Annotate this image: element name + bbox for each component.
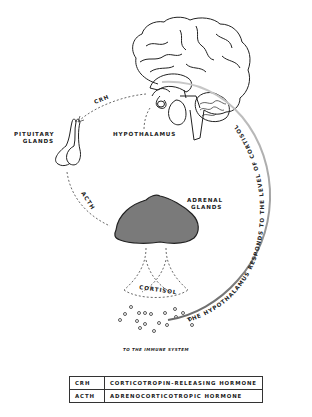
brain-illustration [133,17,250,140]
legend-full: CORTICOTROPIN-RELEASING HORMONE [105,377,263,390]
hypothalamus-label: HYPOTHALAMUS [113,131,176,138]
immune-system-label: TO THE IMMUNE SYSTEM [110,346,202,353]
pituitary-label-line1: PITUITARY [14,131,54,138]
acth-arrow-label: ACTH [80,190,96,211]
hpa-axis-diagram: THE HYPOTHALAMUS RESPONDS TO THE LEVEL O… [0,0,312,417]
adrenal-gland-illustration [115,195,198,243]
legend-abbr: CRH [70,377,105,390]
crh-arrow [80,94,146,120]
legend-full: ADRENOCORTICOTROPIC HORMONE [105,390,263,403]
crh-arrow-label: CRH [93,93,110,104]
legend-row: CRH CORTICOTROPIN-RELEASING HORMONE [70,377,263,390]
legend-abbr: ACTH [70,390,105,403]
hypothalamus-leader [144,108,150,130]
abbreviation-legend: CRH CORTICOTROPIN-RELEASING HORMONE ACTH… [69,376,263,403]
adrenal-label-line1: ADRENAL [187,197,223,204]
cortisol-label: CORTISOL [139,284,178,295]
pituitary-label-line2: GLANDS [14,138,54,145]
adrenal-label-line2: GLANDS [191,204,222,211]
pituitary-gland-illustration [56,119,81,166]
legend-row: ACTH ADRENOCORTICOTROPIC HORMONE [70,390,263,403]
cortisol-molecules [119,306,194,333]
